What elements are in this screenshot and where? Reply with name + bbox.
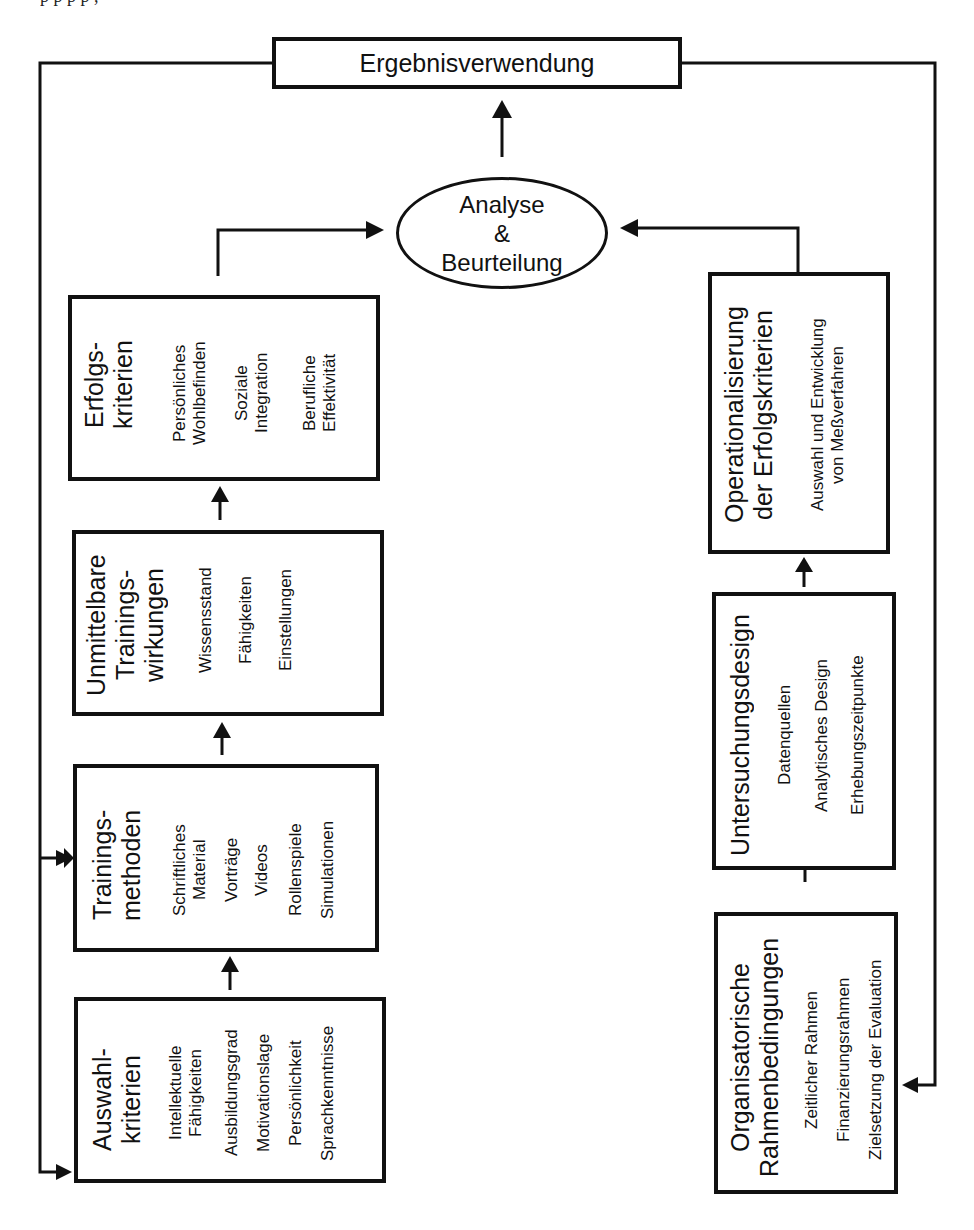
analysis-line-2: & <box>494 219 510 248</box>
result-usage-label: Ergebnisverwendung <box>360 49 595 78</box>
success-criteria-title: Erfolgs-kriterien <box>80 305 138 465</box>
training-methods-title: Trainings-methoden <box>88 790 146 940</box>
method-item: Vorträge <box>222 800 242 940</box>
design-item: Analytisches Design <box>812 615 832 855</box>
method-item: SchriftlichesMaterial <box>170 800 210 940</box>
selection-item: Motivationslage <box>254 1018 274 1168</box>
condition-item: Finanzierungsrahmen <box>834 935 854 1185</box>
selection-item: IntellektuelleFähigkeiten <box>166 1018 206 1168</box>
criteria-item: SozialeIntegration <box>232 318 272 468</box>
effect-item: Wissensstand <box>196 550 216 690</box>
analysis-line-3: Beurteilung <box>441 248 562 277</box>
criteria-item: PersönlichesWohlbefinden <box>170 318 210 468</box>
selection-criteria-title: Auswahl-kriterien <box>88 1030 146 1170</box>
condition-item: Zeitlicher Rahmen <box>802 935 822 1185</box>
criteria-item: BeruflicheEffektivität <box>300 318 340 468</box>
selection-item: Persönlichkeit <box>286 1018 306 1168</box>
design-item: Erhebungszeitpunkte <box>848 615 868 855</box>
selection-item: Sprachkenntnisse <box>318 1018 338 1168</box>
design-item: Datenquellen <box>775 615 795 855</box>
method-item: Simulationen <box>318 800 338 940</box>
analysis-line-1: Analyse <box>459 190 544 219</box>
study-design-title: Untersuchungsdesign <box>726 605 755 865</box>
training-effects-title: UnmittelbareTrainings-wirkungen <box>82 550 169 700</box>
effect-item: Einstellungen <box>276 550 296 690</box>
operationalization-title: Operationalisierungder Erfolgskriterien <box>720 290 778 540</box>
condition-item: Zielsetzung der Evaluation <box>866 935 886 1185</box>
result-usage-box: Ergebnisverwendung <box>272 37 682 89</box>
analysis-ellipse: Analyse & Beurteilung <box>396 177 608 289</box>
method-item: Videos <box>252 800 272 940</box>
effect-item: Fähigkeiten <box>236 550 256 690</box>
selection-item: Ausbildungsgrad <box>222 1018 242 1168</box>
organizational-conditions-title: OrganisatorischeRahmenbedingungen <box>726 930 784 1185</box>
method-item: Rollenspiele <box>286 800 306 940</box>
operationalization-item: Auswahl und Entwicklungvon Meßverfahren <box>808 290 848 540</box>
